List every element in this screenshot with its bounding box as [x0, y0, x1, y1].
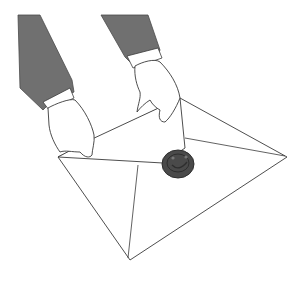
illustration: [0, 0, 307, 281]
envelope-illustration: [0, 0, 307, 281]
left-hand: [48, 100, 94, 157]
seal-eye-left: [171, 156, 174, 159]
seal-eye-right: [184, 155, 187, 158]
